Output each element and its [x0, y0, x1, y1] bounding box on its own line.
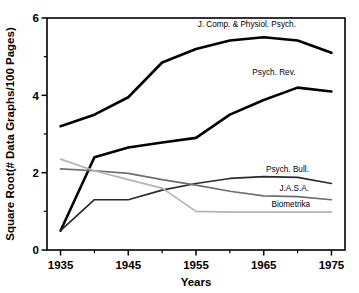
plot-frame: [47, 18, 345, 250]
series-line-0: [61, 37, 332, 126]
series-label-2: Psych. Bull.: [266, 165, 309, 174]
y-tick-label: 0: [33, 244, 39, 256]
series-label-1: Psych. Rev.: [252, 68, 295, 77]
x-tick-label: 1935: [48, 259, 74, 271]
y-axis-title: Square Root(# Data Graphs/100 Pages): [4, 27, 16, 241]
x-tick-label: 1945: [115, 259, 141, 271]
chart-figure: 024619351945195519651975YearsSquare Root…: [0, 0, 359, 293]
y-tick-label: 6: [33, 12, 39, 24]
line-chart: 024619351945195519651975YearsSquare Root…: [0, 0, 359, 293]
x-tick-label: 1955: [183, 259, 209, 271]
y-tick-label: 2: [33, 167, 39, 179]
series-label-3: J.A.S.A.: [279, 184, 309, 193]
series-label-4: Biometrika: [271, 200, 310, 209]
x-tick-label: 1965: [251, 259, 277, 271]
x-axis-title: Years: [181, 276, 212, 288]
x-tick-label: 1975: [319, 259, 345, 271]
series-line-1: [61, 88, 332, 231]
series-label-0: J. Comp. & Physiol. Psych.: [198, 20, 296, 29]
y-tick-label: 4: [33, 90, 40, 102]
